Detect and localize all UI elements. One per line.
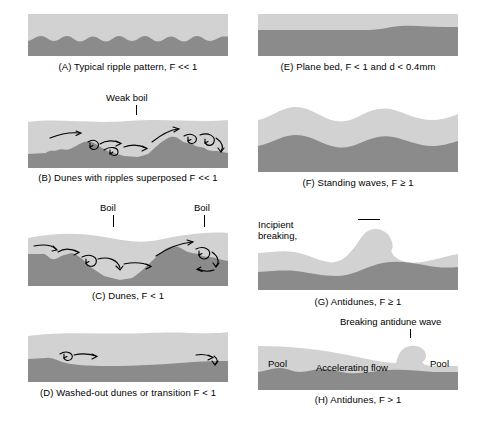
panel-c-diagram bbox=[28, 228, 228, 286]
panel-h-caption: (H) Antidunes, F > 1 bbox=[258, 394, 458, 405]
panel-f: (F) Standing waves, F ≥ 1 bbox=[258, 104, 458, 188]
panel-g-caption: (G) Antidunes, F ≥ 1 bbox=[258, 296, 458, 307]
breaking-antidune-wave-leader bbox=[410, 329, 411, 338]
pool-right-label: Pool bbox=[430, 358, 449, 369]
sediment-layer-e bbox=[258, 26, 458, 56]
boil-right-leader bbox=[204, 215, 205, 227]
pool-left-label: Pool bbox=[268, 358, 287, 369]
boil-left-leader bbox=[113, 215, 114, 227]
accelerating-flow-label: Accelerating flow bbox=[316, 362, 388, 373]
boil-right-label: Boil bbox=[194, 202, 210, 213]
bedform-flow-regime-figure: (A) Typical ripple pattern, F << 1 Weak … bbox=[0, 0, 486, 425]
panel-d: (D) Washed-out dunes or transition F < 1 bbox=[28, 328, 228, 398]
panel-d-caption: (D) Washed-out dunes or transition F < 1 bbox=[28, 387, 228, 398]
incipient-breaking-leader bbox=[358, 219, 380, 220]
panel-b-caption: (B) Dunes with ripples superposed F << 1 bbox=[28, 172, 228, 183]
panel-a-caption: (A) Typical ripple pattern, F << 1 bbox=[28, 61, 228, 72]
panel-a: (A) Typical ripple pattern, F << 1 bbox=[28, 14, 228, 72]
breaking-antidune-wave-label: Breaking antidune wave bbox=[340, 316, 441, 327]
panel-g-diagram bbox=[258, 228, 458, 290]
panel-e-diagram bbox=[258, 14, 458, 56]
weak-boil-label: Weak boil bbox=[106, 92, 148, 103]
weak-boil-leader bbox=[136, 105, 137, 115]
panel-b-diagram bbox=[28, 116, 228, 168]
boil-left-label: Boil bbox=[100, 202, 116, 213]
panel-e-caption: (E) Plane bed, F < 1 and d < 0.4mm bbox=[258, 61, 458, 72]
panel-f-caption: (F) Standing waves, F ≥ 1 bbox=[258, 177, 458, 188]
panel-a-diagram bbox=[28, 14, 228, 56]
panel-e: (E) Plane bed, F < 1 and d < 0.4mm bbox=[258, 14, 458, 72]
panel-d-diagram bbox=[28, 328, 228, 382]
panel-c-caption: (C) Dunes, F < 1 bbox=[28, 290, 228, 301]
panel-f-diagram bbox=[258, 104, 458, 172]
